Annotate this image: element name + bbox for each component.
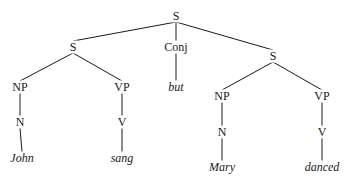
node-v_right: V: [317, 126, 328, 139]
node-danced: danced: [304, 161, 341, 174]
node-sang: sang: [110, 152, 135, 165]
node-john: John: [9, 152, 34, 165]
edge-s_right-vp_right: [273, 62, 322, 90]
node-v_left: V: [117, 116, 128, 129]
edge-s_left-vp_left: [73, 53, 122, 81]
node-s_left: S: [69, 41, 78, 54]
node-s_root: S: [172, 10, 181, 23]
syntax-tree-diagram: SSConjSNPVPbutNPVPNVNVJohnsangMarydanced: [0, 0, 352, 180]
node-np_left: NP: [11, 81, 28, 94]
edge-n_left-john: [20, 128, 22, 152]
edge-s_right-np_right: [222, 62, 273, 90]
node-conj: Conj: [163, 41, 188, 54]
node-but: but: [167, 81, 184, 94]
node-n_left: N: [15, 116, 26, 129]
edge-s_root-s_right: [176, 22, 273, 50]
node-s_right: S: [269, 50, 278, 63]
node-np_right: NP: [213, 90, 230, 103]
node-vp_left: VP: [113, 81, 130, 94]
edge-s_root-s_left: [73, 22, 176, 41]
node-n_right: N: [217, 126, 228, 139]
edge-s_left-np_left: [20, 53, 73, 81]
node-vp_right: VP: [313, 90, 330, 103]
node-mary: Mary: [208, 161, 236, 174]
